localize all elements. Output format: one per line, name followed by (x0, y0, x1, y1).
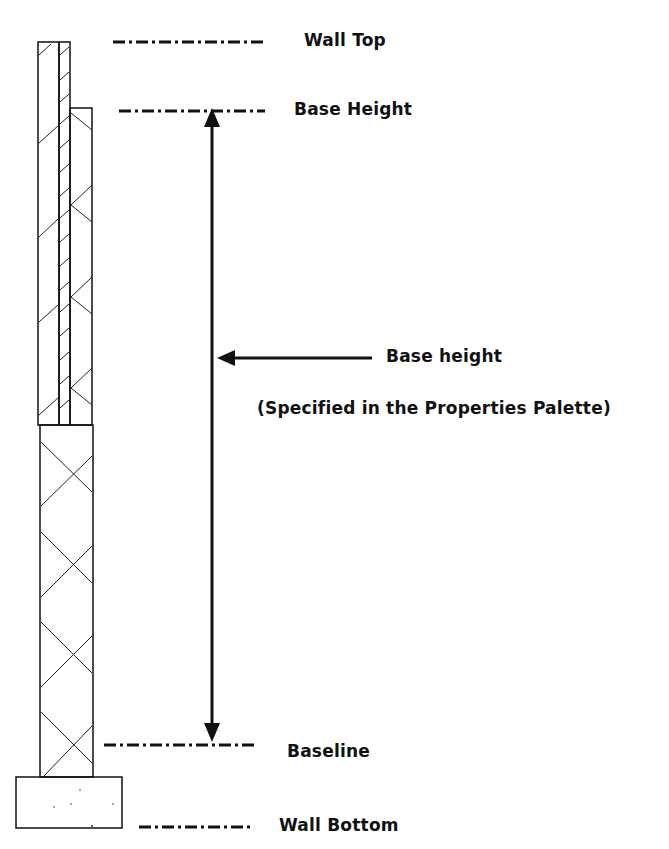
arrow-left-icon (217, 350, 235, 366)
baseline-label: Baseline (287, 741, 370, 761)
footing (16, 777, 122, 828)
hatch-outer (39, 44, 59, 415)
specified-note-label: (Specified in the Properties Palette) (257, 398, 611, 418)
base-height-label: Base Height (294, 99, 412, 119)
base-height-pointer-label: Base height (386, 346, 502, 366)
hatch-inner (71, 113, 92, 405)
base-height-dimension-arrow (204, 108, 220, 742)
wall-section-diagram (0, 0, 669, 849)
lower-core (40, 425, 93, 777)
wall-top-label: Wall Top (304, 30, 386, 50)
arrow-down-icon (204, 723, 220, 742)
hatch-core (41, 442, 92, 777)
wall-section (16, 42, 122, 828)
hatch-thin (60, 47, 69, 408)
base-height-pointer-arrow (217, 350, 372, 366)
footing-specks (53, 789, 114, 827)
upper-layer-thin (59, 42, 70, 425)
upper-layer-inner (70, 108, 92, 425)
upper-layer-outer (38, 42, 59, 425)
wall-bottom-label: Wall Bottom (279, 815, 399, 835)
reference-lines (104, 42, 265, 827)
